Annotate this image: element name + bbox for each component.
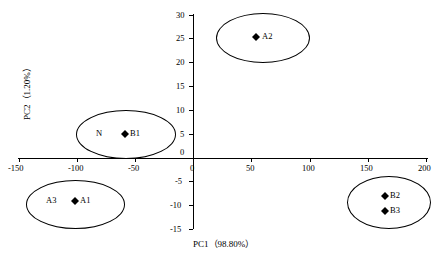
y-tick	[189, 229, 193, 230]
x-tick-label: 50	[246, 164, 255, 173]
y-tick	[189, 62, 193, 63]
x-tick-label: 100	[302, 164, 315, 173]
y-tick	[189, 158, 193, 159]
y-tick-label: 10	[176, 106, 185, 115]
cluster-ellipse-b2-b3	[347, 176, 431, 229]
y-tick	[189, 134, 193, 135]
pca-scatter-chart: -150 -100 -50 0 50 100 150 200 -15 -10 -…	[0, 0, 446, 258]
x-tick-label: 200	[418, 164, 431, 173]
y-tick-label: -10	[170, 201, 181, 210]
x-tick	[193, 158, 194, 162]
data-point-label-b2: B2	[390, 191, 400, 200]
data-point-label-n: N	[96, 129, 102, 138]
data-point-label-a3: A3	[46, 196, 56, 205]
x-tick	[368, 158, 369, 162]
data-point-label-a2: A2	[262, 32, 272, 41]
x-tick	[310, 158, 311, 162]
y-tick	[189, 38, 193, 39]
y-tick	[189, 86, 193, 87]
x-axis-line	[18, 158, 428, 159]
y-tick	[189, 110, 193, 111]
y-tick-label: 0	[180, 148, 184, 157]
y-axis-line	[193, 14, 194, 229]
x-tick	[251, 158, 252, 162]
y-tick-label: 5	[180, 130, 184, 139]
x-tick	[19, 158, 20, 162]
y-axis-title: PC2（1.20%）	[20, 63, 33, 120]
y-tick	[189, 205, 193, 206]
y-tick-label: 20	[176, 58, 185, 67]
x-tick-label: -100	[68, 164, 84, 173]
data-point-label-b3: B3	[390, 206, 400, 215]
x-tick	[135, 158, 136, 162]
x-tick	[77, 158, 78, 162]
y-tick	[189, 181, 193, 182]
x-axis-title: PC1（98.80%）	[193, 237, 254, 250]
y-tick	[189, 15, 193, 16]
x-tick-label: 0	[190, 164, 194, 173]
y-tick-label: 30	[176, 11, 185, 20]
y-tick-label: -5	[175, 177, 182, 186]
y-tick-label: 15	[176, 82, 185, 91]
y-tick-label: -15	[170, 225, 181, 234]
x-tick-label: -150	[8, 164, 24, 173]
y-tick-label: 25	[176, 34, 185, 43]
x-tick	[426, 158, 427, 162]
x-tick-label: 150	[360, 164, 373, 173]
data-point-label-a1: A1	[80, 196, 90, 205]
x-tick-label: -50	[128, 164, 139, 173]
data-point-label-b1: B1	[130, 129, 140, 138]
